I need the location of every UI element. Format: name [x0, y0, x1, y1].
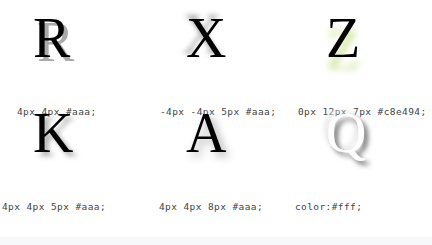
sample-caption-k: 4px 4px 5px #aaa;	[2, 167, 106, 245]
letter-k-glyph: K	[33, 105, 73, 161]
letter-r-glyph: R	[33, 10, 70, 66]
sample-cell-k: K 4px 4px 5px #aaa;	[0, 95, 146, 237]
letter-x-glyph: X	[186, 10, 226, 66]
sample-cell-q: Q color:#fff; 4px 4px 5px #777, -4px -4p…	[286, 95, 432, 237]
sample-cell-a: A 4px 4px 8px #aaa;	[146, 95, 286, 237]
letter-q-glyph: Q	[326, 105, 366, 161]
sample-row-bottom: K 4px 4px 5px #aaa; A 4px 4px 8px #aaa; …	[0, 95, 432, 237]
caption-line: 4px 4px 8px #aaa;	[159, 199, 263, 215]
letter-a-glyph: A	[186, 105, 226, 161]
sample-row-top: R 4px 4px #aaa; X -4px -4px 5px #aaa; Z …	[0, 0, 432, 95]
bottom-edge-band	[0, 237, 432, 245]
sample-cell-r: R 4px 4px #aaa;	[0, 0, 146, 95]
caption-line: 4px 4px 5px #aaa;	[2, 199, 106, 215]
letter-z-glyph: Z	[326, 10, 360, 66]
sample-caption-q: color:#fff; 4px 4px 5px #777, -4px -4px …	[295, 167, 430, 245]
sample-cell-x: X -4px -4px 5px #aaa;	[146, 0, 286, 95]
sample-caption-a: 4px 4px 8px #aaa;	[159, 167, 263, 245]
sample-cell-z: Z 0px 12px 7px #c8e494;	[286, 0, 432, 95]
text-shadow-sample-sheet: R 4px 4px #aaa; X -4px -4px 5px #aaa; Z …	[0, 0, 432, 245]
caption-line: color:#fff;	[295, 199, 430, 215]
